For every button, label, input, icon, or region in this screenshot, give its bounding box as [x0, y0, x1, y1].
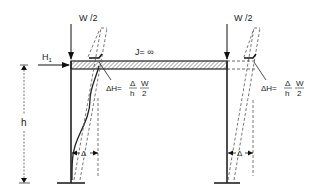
- right-frac2-den: 2: [297, 89, 302, 98]
- right-tilted-outline: [228, 28, 260, 180]
- right-drift-dimension: Δ: [228, 149, 253, 158]
- left-frac1-num: Δ: [130, 79, 136, 88]
- horizontal-load-label: H1: [42, 52, 53, 63]
- right-formula-leader: [254, 62, 266, 80]
- left-formula: ΔH= Δ h W 2: [106, 79, 149, 98]
- right-rotation-marker: [244, 54, 256, 58]
- left-column: [57, 61, 85, 183]
- left-rotation-marker: [89, 54, 102, 58]
- right-frac1-den: h: [285, 89, 289, 98]
- left-load-label: W /2: [79, 13, 98, 23]
- left-frac2-num: W: [141, 79, 149, 88]
- left-deformed-shape: [72, 66, 99, 180]
- right-drift-label: Δ: [237, 149, 243, 158]
- right-column: [214, 61, 240, 183]
- height-dimension: h: [19, 65, 30, 183]
- left-frac1-den: h: [130, 89, 134, 98]
- horizontal-load: H1: [38, 52, 69, 65]
- right-load-label: W /2: [234, 13, 253, 23]
- right-frac1-num: Δ: [285, 79, 291, 88]
- left-drift-label: Δ: [81, 149, 87, 158]
- beam-stiffness-label: J= ∞: [135, 47, 154, 57]
- left-formula-lhs: ΔH=: [106, 84, 122, 93]
- left-frac2-den: 2: [142, 89, 147, 98]
- left-vertical-load: W /2: [71, 13, 98, 59]
- left-tilted-outline: [74, 28, 107, 180]
- height-label: h: [21, 117, 27, 128]
- right-frac2-num: W: [296, 79, 304, 88]
- right-formula: ΔH= Δ h W 2: [261, 79, 304, 98]
- right-vertical-load: W /2: [227, 13, 253, 59]
- displaced-beam-outline: [227, 61, 256, 69]
- left-drift-dimension: Δ: [72, 149, 98, 158]
- portal-frame-diagram: W /2 W /2 H1 J= ∞ h Δ Δ: [0, 0, 310, 194]
- right-formula-lhs: ΔH=: [261, 84, 277, 93]
